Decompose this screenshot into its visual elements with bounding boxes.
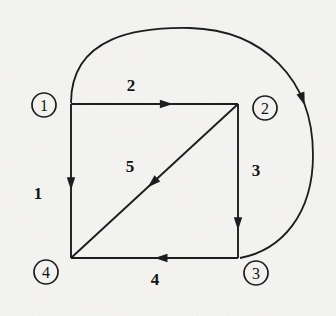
arrowhead-e3: [234, 217, 242, 230]
arrowhead-e1: [67, 177, 75, 190]
node-label-3: 3: [252, 265, 260, 282]
arrowhead-e6: [296, 92, 304, 106]
edge-label-e4: 4: [151, 270, 160, 289]
edge-label-e3: 3: [252, 161, 261, 180]
arrowheads-group: [67, 92, 305, 263]
edge-label-e5: 5: [126, 157, 135, 176]
graph-canvas: 1234 12345: [0, 0, 336, 316]
edge-label-e1: 1: [34, 184, 43, 203]
edges-group: [71, 28, 313, 258]
node-label-2: 2: [261, 100, 269, 117]
graph-diagram: 1234 12345: [0, 0, 336, 316]
node-label-1: 1: [40, 97, 48, 114]
arrowhead-e4: [155, 254, 168, 262]
arrowhead-e2: [160, 100, 173, 108]
nodes-group: 1234: [32, 93, 277, 285]
edge-label-e2: 2: [127, 76, 136, 95]
edge-labels-group: 12345: [34, 76, 261, 289]
node-label-4: 4: [42, 264, 50, 281]
